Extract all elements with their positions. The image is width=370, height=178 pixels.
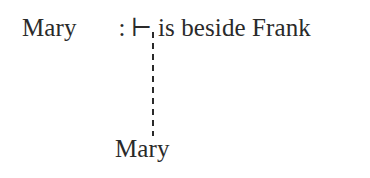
diagram-canvas: Mary : ⊢ is beside Frank Mary xyxy=(0,0,370,178)
subject-label: Mary xyxy=(22,13,77,42)
dashed-connector-line xyxy=(152,32,154,136)
dashed-line-icon xyxy=(152,32,154,136)
turnstile-icon: ⊢ xyxy=(126,13,155,42)
colon-separator: : xyxy=(119,13,126,42)
sequent-line: Mary : ⊢ is beside Frank xyxy=(22,13,311,42)
predicate-label: is beside Frank xyxy=(154,13,311,42)
bottom-subject-label: Mary xyxy=(115,134,170,163)
